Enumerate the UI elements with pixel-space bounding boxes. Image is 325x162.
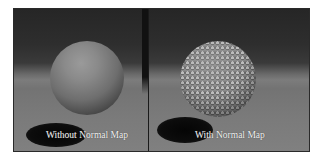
smooth-sphere: [50, 41, 124, 115]
caption-with-normal-map: With Normal Map: [195, 130, 265, 140]
panel-without-normal-map: Without Normal Map: [14, 9, 149, 151]
dimpled-sphere: [180, 41, 256, 117]
panel-with-normal-map: With Normal Map: [149, 9, 309, 151]
caption-without-normal-map: Without Normal Map: [46, 130, 128, 140]
normal-map-comparison-figure: Without Normal Map With Normal Map: [13, 8, 310, 152]
